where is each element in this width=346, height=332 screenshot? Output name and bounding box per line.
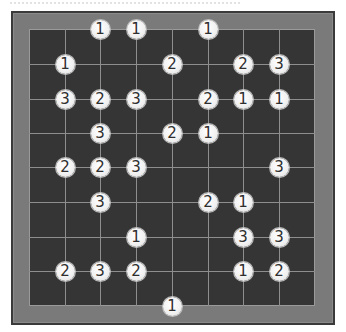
island-clue[interactable]: 2 xyxy=(199,90,218,109)
island-clue[interactable]: 3 xyxy=(127,90,146,109)
island-clue[interactable]: 1 xyxy=(199,20,218,39)
clipped-caption-text xyxy=(10,0,240,4)
island-clue[interactable]: 3 xyxy=(91,124,110,143)
island-clue[interactable]: 1 xyxy=(199,124,218,143)
island-clue[interactable]: 1 xyxy=(56,55,75,74)
island-clue[interactable]: 2 xyxy=(163,124,182,143)
island-clue[interactable]: 2 xyxy=(199,193,218,212)
island-clue[interactable]: 2 xyxy=(127,262,146,281)
island-clue[interactable]: 2 xyxy=(91,158,110,177)
island-clue[interactable]: 1 xyxy=(270,90,289,109)
island-clue[interactable]: 3 xyxy=(91,262,110,281)
island-clue[interactable]: 1 xyxy=(127,228,146,247)
island-clue[interactable]: 3 xyxy=(270,228,289,247)
island-clue[interactable]: 2 xyxy=(56,262,75,281)
island-clue[interactable]: 3 xyxy=(234,228,253,247)
island-clue[interactable]: 3 xyxy=(91,193,110,212)
island-clue[interactable]: 2 xyxy=(91,90,110,109)
island-clue[interactable]: 1 xyxy=(234,193,253,212)
island-clue[interactable]: 2 xyxy=(56,158,75,177)
island-clue[interactable]: 3 xyxy=(270,158,289,177)
island-clue[interactable]: 2 xyxy=(234,55,253,74)
clipped-caption-strip xyxy=(0,0,346,6)
island-clue[interactable]: 3 xyxy=(127,158,146,177)
island-clue[interactable]: 2 xyxy=(270,262,289,281)
island-clue[interactable]: 1 xyxy=(234,262,253,281)
island-clue[interactable]: 1 xyxy=(234,90,253,109)
island-clue[interactable]: 2 xyxy=(163,55,182,74)
island-clue[interactable]: 1 xyxy=(91,20,110,39)
island-clue[interactable]: 3 xyxy=(270,55,289,74)
island-clue[interactable]: 1 xyxy=(163,297,182,316)
island-clue[interactable]: 3 xyxy=(56,90,75,109)
island-clue[interactable]: 1 xyxy=(127,20,146,39)
